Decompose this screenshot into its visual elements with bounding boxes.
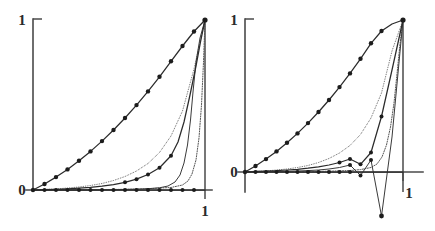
curves-right — [245, 20, 403, 216]
curve-thin-inner — [33, 20, 205, 190]
y-axis-label-top: 1 — [18, 12, 26, 28]
curve-dotted-outer — [245, 20, 403, 172]
markers-curve-2-right — [338, 115, 384, 167]
chart-svg-right: 1 0 1 — [217, 0, 435, 231]
chart-panel-left: 1 0 1 — [0, 0, 218, 231]
curves-left — [33, 20, 205, 190]
chart-panel-right: 1 0 1 — [217, 0, 435, 231]
curve-2-oscillating-path — [245, 20, 403, 172]
curve-1-path — [33, 20, 205, 190]
markers-curve-1-left — [31, 17, 208, 192]
curve-1-path — [245, 20, 403, 172]
markers-curve-2-left — [123, 154, 173, 185]
y-axis-label-top: 1 — [230, 12, 238, 28]
y-axis-label-zero: 0 — [230, 164, 238, 180]
markers-curve-1-right — [243, 17, 406, 174]
chart-svg-left: 1 0 1 — [0, 0, 218, 231]
curve-2-path — [33, 20, 205, 190]
x-axis-label-one: 1 — [201, 203, 209, 219]
curve-3-spike-path — [245, 20, 403, 216]
curve-dense-dotted — [245, 20, 403, 172]
curve-dotted-outer — [33, 20, 205, 190]
x-axis-label-one: 1 — [405, 185, 413, 201]
curve-dense-dotted — [33, 20, 205, 190]
y-axis-label-zero: 0 — [18, 182, 26, 198]
figure-container: 1 0 1 — [0, 0, 435, 231]
